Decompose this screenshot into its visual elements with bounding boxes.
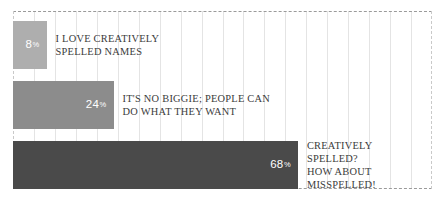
horizontal-bar-chart: 8%I LOVE CREATIVELYSPELLED NAMES24%IT'S … bbox=[0, 0, 446, 203]
bar-value-label: 8% bbox=[25, 39, 46, 51]
bar-value-label: 24% bbox=[86, 99, 114, 111]
plot-area: 8%I LOVE CREATIVELYSPELLED NAMES24%IT'S … bbox=[13, 11, 432, 189]
bar-category-label-line: IT'S NO BIGGIE; PEOPLE CAN bbox=[123, 92, 432, 105]
bar[interactable]: 24% bbox=[13, 81, 114, 129]
bar-category-label-line: SPELLED NAMES bbox=[56, 45, 432, 58]
bar-category-label: I LOVE CREATIVELYSPELLED NAMES bbox=[47, 21, 432, 69]
bar-category-label-line: DO WHAT THEY WANT bbox=[123, 105, 432, 118]
bar[interactable]: 68% bbox=[13, 141, 298, 189]
bar-category-label-line: HOW ABOUT bbox=[307, 165, 432, 178]
bar-row: 8%I LOVE CREATIVELYSPELLED NAMES bbox=[13, 21, 432, 69]
bar-series: 8%I LOVE CREATIVELYSPELLED NAMES24%IT'S … bbox=[13, 11, 432, 189]
bar-category-label: CREATIVELYSPELLED?HOW ABOUTMISSPELLED! bbox=[298, 141, 432, 189]
bar[interactable]: 8% bbox=[13, 21, 47, 69]
bar-category-label-line: SPELLED? bbox=[307, 152, 432, 165]
bar-category-label: IT'S NO BIGGIE; PEOPLE CANDO WHAT THEY W… bbox=[114, 81, 432, 129]
bar-category-label-line: MISSPELLED! bbox=[307, 178, 432, 191]
bar-row: 68%CREATIVELYSPELLED?HOW ABOUTMISSPELLED… bbox=[13, 141, 432, 189]
bar-row: 24%IT'S NO BIGGIE; PEOPLE CANDO WHAT THE… bbox=[13, 81, 432, 129]
bar-category-label-line: CREATIVELY bbox=[307, 139, 432, 152]
bar-category-label-line: I LOVE CREATIVELY bbox=[56, 32, 432, 45]
bar-value-label: 68% bbox=[270, 159, 298, 171]
